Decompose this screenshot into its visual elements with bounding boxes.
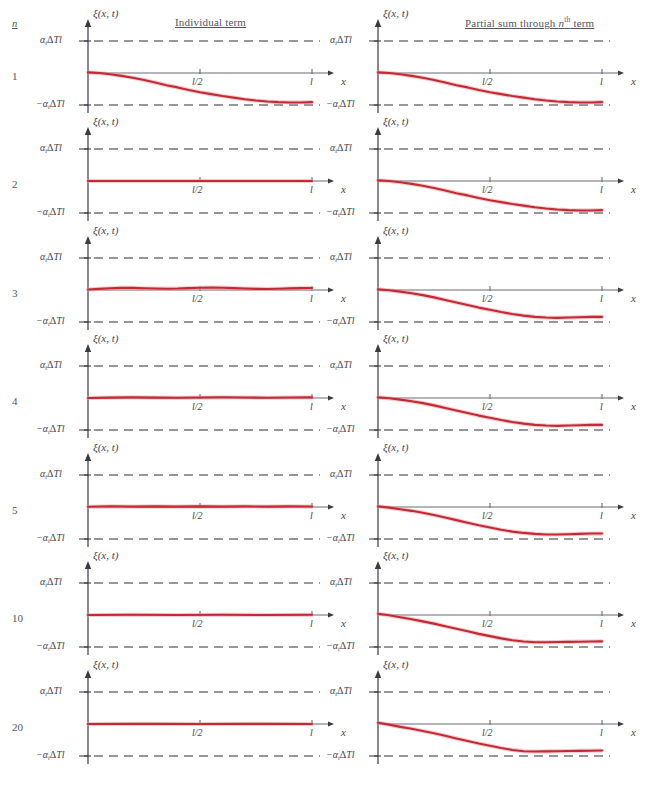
fourier-convergence-figure: n Individual term Partial sum through nt… xyxy=(0,0,646,790)
x-axis-arrowhead xyxy=(618,721,624,726)
y-axis-upper-label: αtΔTl xyxy=(40,359,62,371)
x-axis-arrowhead xyxy=(618,287,624,292)
y-axis-arrowhead xyxy=(85,236,91,244)
y-axis-lower-label: −αtΔTl xyxy=(326,315,355,327)
x-tick-label-end: l xyxy=(600,76,603,87)
x-tick-label-end: l xyxy=(310,510,313,521)
x-axis-arrowhead xyxy=(328,612,334,617)
y-axis-name-label: ξ(x, t) xyxy=(93,332,118,344)
y-axis-upper-label: αtΔTl xyxy=(330,142,352,154)
y-axis-name-label: ξ(x, t) xyxy=(383,658,408,670)
y-axis-upper-label: αtΔTl xyxy=(330,251,352,263)
x-axis-arrowhead xyxy=(328,178,334,183)
x-tick-label-mid: l/2 xyxy=(482,76,493,87)
y-axis-upper-label: αtΔTl xyxy=(40,34,62,46)
y-axis-name-label: ξ(x, t) xyxy=(93,7,118,19)
plot-partial-sum-n20: ξ(x, t)αtΔTl−αtΔTll/2lx xyxy=(352,676,646,776)
y-axis-name-label: ξ(x, t) xyxy=(383,115,408,127)
y-axis-name-label: ξ(x, t) xyxy=(383,441,408,453)
y-axis-upper-label: αtΔTl xyxy=(330,576,352,588)
y-axis-arrowhead xyxy=(85,670,91,678)
x-axis-arrowhead xyxy=(618,612,624,617)
row-number-n1: 1 xyxy=(12,70,36,82)
x-tick-label-end: l xyxy=(310,76,313,87)
row-number-n5: 5 xyxy=(12,504,36,516)
y-axis-name-label: ξ(x, t) xyxy=(93,115,118,127)
y-axis-upper-label: αtΔTl xyxy=(40,685,62,697)
data-curve xyxy=(88,397,312,398)
y-axis-arrowhead xyxy=(85,453,91,461)
y-axis-lower-label: −αtΔTl xyxy=(36,532,65,544)
x-tick-label-mid: l/2 xyxy=(192,401,203,412)
y-axis-upper-label: αtΔTl xyxy=(40,251,62,263)
plot-partial-sum-n5: ξ(x, t)αtΔTl−αtΔTll/2lx xyxy=(352,459,646,559)
x-axis-arrowhead xyxy=(618,504,624,509)
y-axis-name-label: ξ(x, t) xyxy=(93,549,118,561)
x-tick-label-mid: l/2 xyxy=(192,184,203,195)
plot-canvas xyxy=(62,133,362,237)
x-tick-label-mid: l/2 xyxy=(192,618,203,629)
y-axis-name-label: ξ(x, t) xyxy=(383,7,408,19)
y-axis-lower-label: −αtΔTl xyxy=(36,206,65,218)
x-tick-label-end: l xyxy=(600,293,603,304)
x-axis-name-label: x xyxy=(341,400,346,412)
y-axis-upper-label: αtΔTl xyxy=(330,34,352,46)
x-tick-label-end: l xyxy=(310,184,313,195)
x-tick-label-mid: l/2 xyxy=(482,184,493,195)
x-axis-name-label: x xyxy=(341,75,346,87)
plot-canvas xyxy=(62,25,362,129)
x-axis-arrowhead xyxy=(328,287,334,292)
x-axis-arrowhead xyxy=(328,70,334,75)
x-axis-name-label: x xyxy=(631,617,636,629)
y-axis-arrowhead xyxy=(375,19,381,27)
x-axis-name-label: x xyxy=(631,509,636,521)
x-axis-name-label: x xyxy=(631,75,636,87)
x-axis-arrowhead xyxy=(328,504,334,509)
x-tick-label-end: l xyxy=(600,510,603,521)
plot-individual-term-n3: ξ(x, t)αtΔTl−αtΔTll/2lx xyxy=(62,242,362,342)
y-axis-lower-label: −αtΔTl xyxy=(36,315,65,327)
y-axis-upper-label: αtΔTl xyxy=(40,468,62,480)
x-tick-label-end: l xyxy=(310,618,313,629)
y-axis-name-label: ξ(x, t) xyxy=(93,224,118,236)
x-axis-arrowhead xyxy=(618,395,624,400)
y-axis-lower-label: −αtΔTl xyxy=(36,423,65,435)
x-tick-label-end: l xyxy=(600,401,603,412)
x-axis-name-label: x xyxy=(631,400,636,412)
plot-individual-term-n20: ξ(x, t)αtΔTl−αtΔTll/2lx xyxy=(62,676,362,776)
y-axis-upper-label: αtΔTl xyxy=(40,142,62,154)
plot-canvas xyxy=(62,567,362,671)
x-tick-label-end: l xyxy=(310,727,313,738)
x-tick-label-mid: l/2 xyxy=(192,293,203,304)
x-tick-label-mid: l/2 xyxy=(192,76,203,87)
y-axis-arrowhead xyxy=(375,236,381,244)
x-tick-label-mid: l/2 xyxy=(482,510,493,521)
x-tick-label-mid: l/2 xyxy=(482,727,493,738)
x-tick-label-end: l xyxy=(310,293,313,304)
row-number-n20: 20 xyxy=(12,721,36,733)
x-axis-name-label: x xyxy=(341,726,346,738)
row-number-n3: 3 xyxy=(12,287,36,299)
y-axis-lower-label: −αtΔTl xyxy=(326,423,355,435)
plot-canvas xyxy=(62,242,362,346)
x-tick-label-mid: l/2 xyxy=(482,401,493,412)
row-number-n10: 10 xyxy=(12,612,36,624)
y-axis-name-label: ξ(x, t) xyxy=(383,224,408,236)
x-axis-arrowhead xyxy=(328,721,334,726)
row-number-n4: 4 xyxy=(12,395,36,407)
x-tick-label-end: l xyxy=(600,184,603,195)
y-axis-lower-label: −αtΔTl xyxy=(36,98,65,110)
y-axis-arrowhead xyxy=(375,670,381,678)
x-axis-arrowhead xyxy=(328,395,334,400)
x-tick-label-end: l xyxy=(310,401,313,412)
plot-partial-sum-n10: ξ(x, t)αtΔTl−αtΔTll/2lx xyxy=(352,567,646,667)
y-axis-lower-label: −αtΔTl xyxy=(326,532,355,544)
plot-partial-sum-n4: ξ(x, t)αtΔTl−αtΔTll/2lx xyxy=(352,350,646,450)
y-axis-upper-label: αtΔTl xyxy=(330,359,352,371)
x-axis-arrowhead xyxy=(618,70,624,75)
plot-individual-term-n5: ξ(x, t)αtΔTl−αtΔTll/2lx xyxy=(62,459,362,559)
plot-individual-term-n10: ξ(x, t)αtΔTl−αtΔTll/2lx xyxy=(62,567,362,667)
y-axis-upper-label: αtΔTl xyxy=(330,468,352,480)
row-number-n2: 2 xyxy=(12,178,36,190)
plot-partial-sum-n2: ξ(x, t)αtΔTl−αtΔTll/2lx xyxy=(352,133,646,233)
